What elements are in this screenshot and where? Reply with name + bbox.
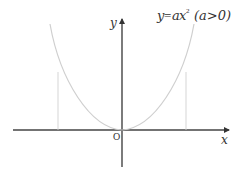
parabola-diagram: y x O y = a x 2 (a>0) (0, 0, 244, 186)
y-axis-label: y (109, 16, 117, 30)
equation-label: y = a x 2 (a>0) (156, 7, 231, 23)
eq-condition: (a>0) (194, 8, 231, 23)
eq-exponent: 2 (186, 7, 190, 15)
origin-label: O (113, 131, 120, 142)
eq-equals: = (164, 8, 171, 23)
x-axis-label: x (221, 133, 228, 147)
